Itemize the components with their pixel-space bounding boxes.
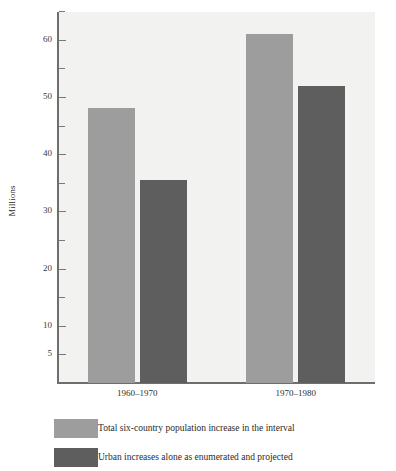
y-tick-minor [59, 297, 65, 298]
y-tick-label: 10 [30, 321, 52, 330]
y-axis-title: Millions [7, 171, 17, 231]
y-tick-major [59, 97, 66, 98]
y-tick-label: 60 [30, 35, 52, 44]
y-tick-minor [59, 126, 65, 127]
legend-label-total: Total six-country population increase in… [98, 423, 295, 433]
legend-label-urban: Urban increases alone as enumerated and … [98, 452, 293, 462]
legend-item-urban: Urban increases alone as enumerated and … [54, 447, 394, 471]
y-tick-minor [59, 68, 65, 69]
y-tick-major [59, 354, 66, 355]
y-tick-minor [59, 240, 65, 241]
bar-total [246, 34, 293, 383]
y-tick-major [59, 40, 66, 41]
x-axis-category-label: 1960–1970 [68, 388, 207, 398]
y-tick-major [59, 269, 66, 270]
y-tick-minor [59, 183, 65, 184]
y-tick-label: 5 [30, 349, 52, 358]
bar-total [88, 108, 135, 383]
x-axis-category-label: 1970–1980 [226, 388, 365, 398]
y-tick-minor [59, 11, 65, 12]
legend-item-total: Total six-country population increase in… [54, 418, 394, 447]
chart-legend: Total six-country population increase in… [54, 418, 394, 471]
bar-urban [140, 180, 187, 383]
y-tick-label: 50 [30, 92, 52, 101]
y-tick-major [59, 326, 66, 327]
y-tick-label: 40 [30, 149, 52, 158]
legend-swatch-total [54, 419, 98, 438]
y-tick-major [59, 154, 66, 155]
bar-urban [298, 86, 345, 383]
legend-swatch-urban [54, 448, 98, 467]
y-tick-label: 20 [30, 264, 52, 273]
y-tick-label: 30 [30, 206, 52, 215]
y-tick-major [59, 211, 66, 212]
